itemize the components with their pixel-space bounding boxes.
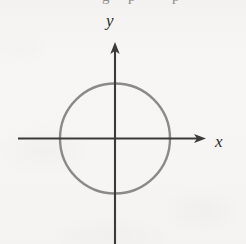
y-axis-label: y (106, 12, 114, 29)
plot-canvas (0, 0, 246, 244)
x-axis-label: x (215, 133, 223, 150)
coordinate-plane-figure: g p p y x (0, 0, 246, 244)
